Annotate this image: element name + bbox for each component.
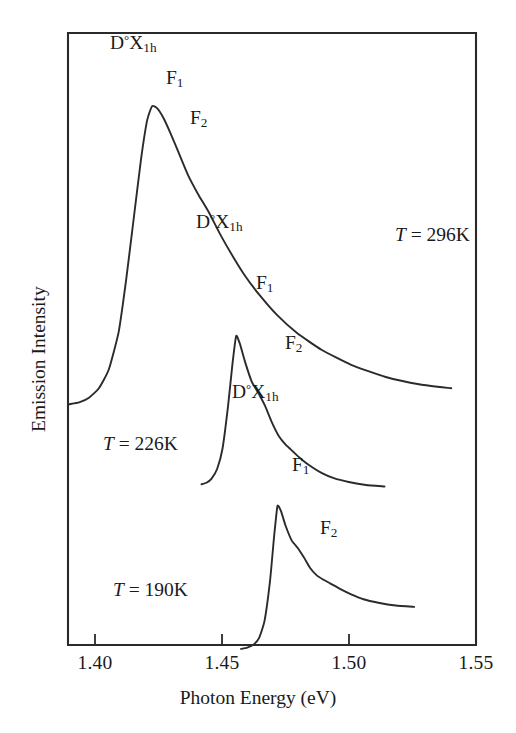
peak-label-f2-226k: F2 <box>285 333 302 354</box>
plot-canvas <box>0 0 516 733</box>
dox-prefix: D <box>232 381 246 402</box>
f1-sub: 1 <box>267 280 274 295</box>
peak-label-dox-226k: D°X1h <box>196 212 243 233</box>
temp-value: = 296K <box>411 224 470 245</box>
f1-letter: F <box>256 272 267 293</box>
x-tick-label-155: 1.55 <box>459 652 494 674</box>
f2-sub: 2 <box>296 340 303 355</box>
dox-letter: X <box>129 32 143 53</box>
peak-label-dox-296k: D°X1h <box>110 33 157 54</box>
peak-label-f2-296k: F2 <box>190 108 207 129</box>
spectra-figure: 1.40 1.45 1.50 1.55 Photon Energy (eV) E… <box>0 0 516 733</box>
temperature-label-190k: T = 190K <box>113 580 188 600</box>
peak-label-dox-190k: D°X1h <box>232 382 279 403</box>
x-tick-label-150: 1.50 <box>332 652 367 674</box>
y-axis-title: Emission Intensity <box>28 286 50 432</box>
peak-label-f1-226k: F1 <box>256 273 273 294</box>
dox-sub: 1h <box>265 389 278 404</box>
temp-symbol: T <box>113 579 124 600</box>
x-tick-label-140: 1.40 <box>78 652 113 674</box>
dox-sub: 1h <box>229 219 242 234</box>
dox-letter: X <box>215 211 229 232</box>
f2-letter: F <box>320 517 331 538</box>
dox-prefix: D <box>110 32 124 53</box>
dox-letter: X <box>251 381 265 402</box>
f1-sub: 1 <box>303 462 310 477</box>
temp-value: = 190K <box>129 579 188 600</box>
f2-sub: 2 <box>201 115 208 130</box>
peak-label-f1-190k: F1 <box>292 455 309 476</box>
f1-sub: 1 <box>177 75 184 90</box>
x-tick-marks <box>95 634 476 645</box>
f2-letter: F <box>190 107 201 128</box>
f2-sub: 2 <box>331 525 338 540</box>
temperature-label-296k: T = 296K <box>395 225 470 245</box>
x-axis-title: Photon Energy (eV) <box>0 687 516 709</box>
temp-symbol: T <box>103 433 114 454</box>
temp-symbol: T <box>395 224 406 245</box>
x-tick-label-145: 1.45 <box>205 652 240 674</box>
f1-letter: F <box>166 67 177 88</box>
temp-value: = 226K <box>119 433 178 454</box>
peak-label-f1-296k: F1 <box>166 68 183 89</box>
f1-letter: F <box>292 454 303 475</box>
spectrum-curve-296k <box>69 106 451 404</box>
dox-sub: 1h <box>143 40 156 55</box>
f2-letter: F <box>285 332 296 353</box>
peak-label-f2-190k: F2 <box>320 518 337 539</box>
temperature-label-226k: T = 226K <box>103 434 178 454</box>
dox-prefix: D <box>196 211 210 232</box>
